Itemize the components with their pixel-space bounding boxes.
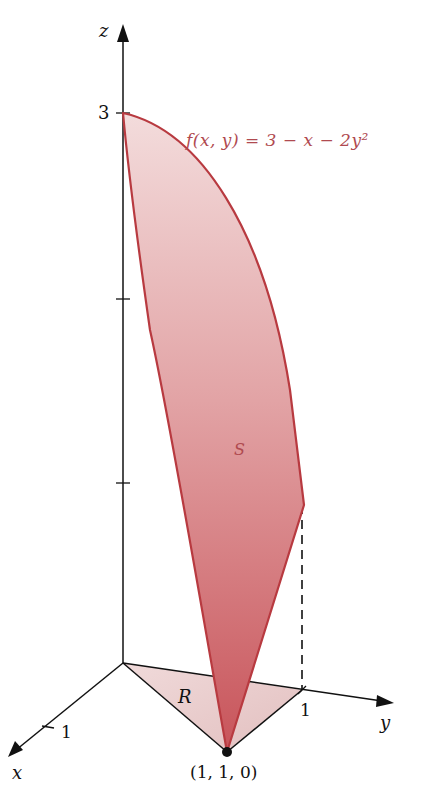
x-axis-label: x (12, 762, 22, 783)
surface-label: S (234, 440, 245, 459)
x-tick-label-1: 1 (61, 722, 72, 742)
surface-s (123, 113, 304, 752)
z-tick-label-3: 3 (98, 102, 109, 123)
region-label: R (178, 686, 192, 707)
z-axis-label: z (99, 20, 108, 41)
y-tick-label-1: 1 (300, 700, 311, 720)
point-label: (1, 1, 0) (190, 762, 257, 782)
z-axis-arrow-icon (117, 24, 129, 42)
y-axis-label: y (380, 712, 390, 733)
surface-diagram (0, 0, 422, 802)
y-axis-arrow-icon (376, 695, 394, 707)
function-label: f(x, y) = 3 − x − 2y² (186, 130, 369, 150)
x-axis-arrow-icon (8, 741, 23, 757)
point-1-1-0 (222, 747, 232, 757)
